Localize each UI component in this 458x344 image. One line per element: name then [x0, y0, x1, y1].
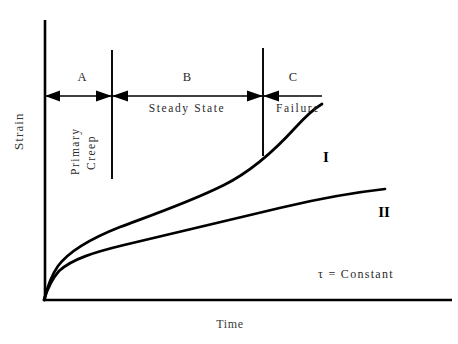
stage-b-arrow-left: [112, 91, 128, 102]
stage-a-arrow-left: [45, 91, 60, 102]
stage-name-steady-state: Steady State: [149, 103, 225, 115]
stage-b-arrow-right: [247, 91, 263, 102]
stage-name-failure: Failure: [276, 103, 320, 115]
creep-curve-II: [44, 189, 385, 300]
stage-letter-b: B: [183, 71, 191, 84]
condition-annotation: τ = Constant: [318, 268, 394, 280]
creep-curve-figure: Strain Time A B C Primary Creep Steady S…: [0, 0, 458, 344]
curve-label-I: I: [323, 150, 329, 165]
y-axis-title: Strain: [12, 112, 25, 150]
x-axis-title: Time: [216, 318, 243, 330]
stage-letter-c: C: [289, 71, 297, 84]
stage-a-arrow-right: [96, 91, 112, 102]
stage-name-primary-creep-line1: Primary: [70, 127, 82, 175]
stage-c-arrow-left: [263, 91, 279, 102]
stage-letter-a: A: [77, 71, 86, 84]
creep-curve-I: [44, 104, 322, 300]
stage-name-primary-creep-line2: Creep: [86, 135, 98, 170]
curve-label-II: II: [378, 205, 390, 220]
